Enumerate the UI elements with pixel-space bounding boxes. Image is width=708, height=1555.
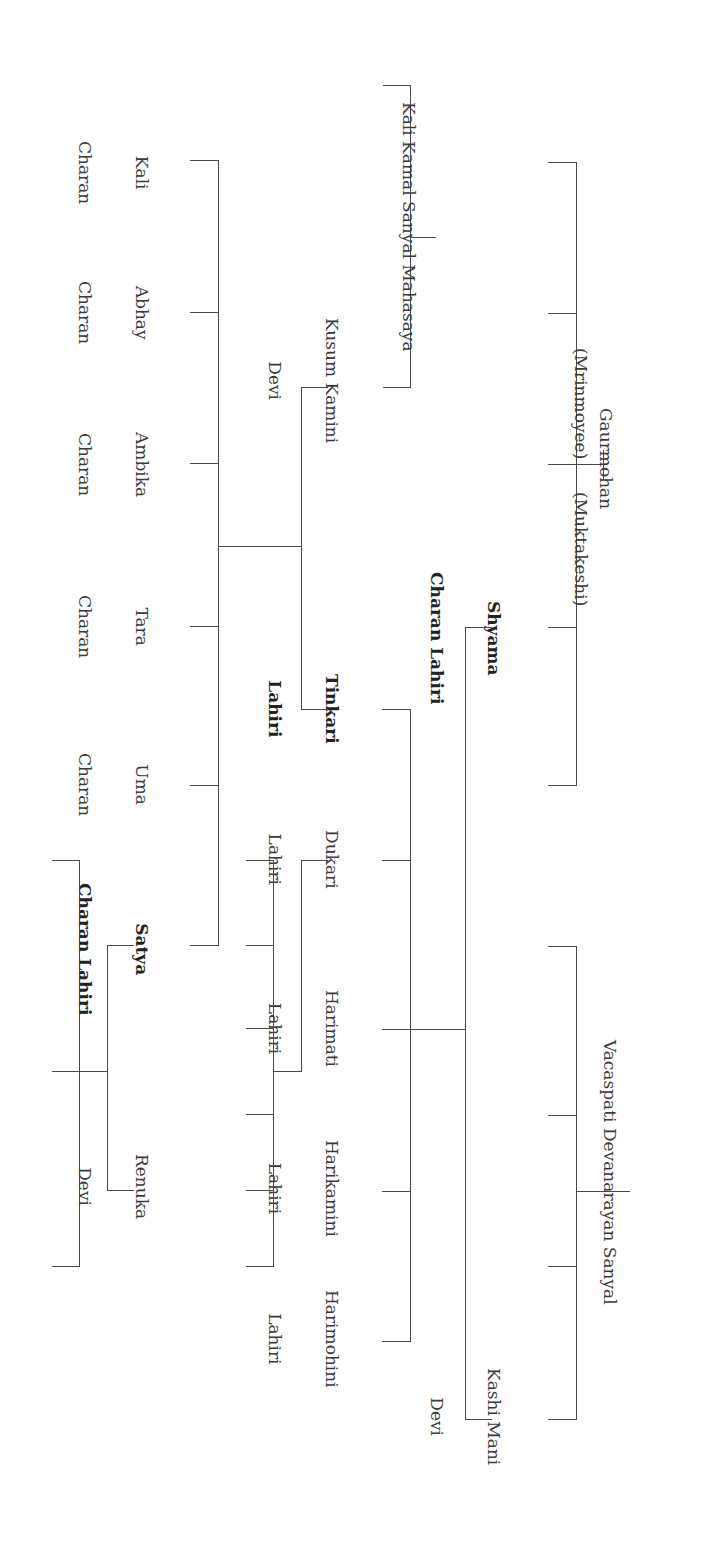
person-satya-charan-lahiri: Satya Charan Lahiri <box>37 883 189 1015</box>
renuka-name-line2: Devi <box>75 1154 94 1219</box>
shyama-name-line1: Shyama <box>484 572 503 704</box>
abhay-charan-tick <box>190 312 219 313</box>
dukari-child-tick-1 <box>246 860 274 861</box>
person-mrinmoyee: (Mrinmoyee) <box>533 348 628 459</box>
dukari-child-tick-3 <box>246 1028 274 1029</box>
vacaspati-name: Vacaspati Devanarayan Sanyal <box>600 1040 619 1305</box>
ambika-charan-name-line1: Ambika <box>132 432 151 497</box>
satya-children-bracket <box>79 860 80 1267</box>
harimohini-name-line2: Lahiri <box>265 1290 284 1388</box>
kusum-kamini-tick <box>383 387 411 388</box>
kali-kamal-name: Kali Kamal Sanyal Mahasaya <box>399 102 418 352</box>
dukari-descent-tick <box>301 860 328 861</box>
ambika-charan-tick <box>190 463 219 464</box>
harikamini-tick <box>382 1191 411 1192</box>
tara-charan-tick <box>190 626 219 627</box>
mrinmoyee-name: (Mrinmoyee) <box>571 348 590 459</box>
satya-name-line1: Satya <box>132 883 151 1015</box>
kusum-kamini-name-line2: Devi <box>265 318 284 443</box>
person-ambika-charan: Ambika Charan <box>37 432 189 497</box>
satya-name-line2: Charan Lahiri <box>75 883 94 1015</box>
satya-couple-tick <box>107 945 134 946</box>
tinkari-couple-tick <box>301 709 328 710</box>
tinkari-name-line2: Lahiri <box>265 674 284 744</box>
shyama-tick <box>465 627 492 628</box>
kashi-mani-name-line1: Kashi Mani <box>484 1368 503 1465</box>
dukari-children-connector <box>273 1071 302 1072</box>
satya-child-tick-3 <box>52 1266 80 1267</box>
kali-charan-tick <box>190 160 219 161</box>
family-tree-diagram: Gaurmohan (Mrinmoyee) (Muktakeshi) Vacas… <box>0 0 708 1555</box>
person-kusum-kamini-devi: Kusum Kamini Devi <box>227 318 379 443</box>
shyama-children-bracket <box>410 709 411 1341</box>
dukari-child-tick-6 <box>246 1266 274 1267</box>
shyama-name-line2: Charan Lahiri <box>427 572 446 704</box>
harikamini-name-line1: Harikamini <box>322 1140 341 1237</box>
person-uma-charan: Uma Charan <box>37 753 189 816</box>
gaurmohan-child-tick-1 <box>548 162 577 163</box>
kali-kamal-child-tick-1 <box>383 85 411 86</box>
uma-charan-tick <box>190 785 219 786</box>
harimohini-name-line1: Harimohini <box>322 1290 341 1388</box>
kali-charan-name-line1: Kali <box>132 141 151 204</box>
person-vacaspati: Vacaspati Devanarayan Sanyal <box>562 1040 657 1305</box>
satya-charan-tick <box>190 945 219 946</box>
dukari-tick <box>382 860 411 861</box>
dukari-descent-line <box>301 860 302 1072</box>
abhay-charan-name-line1: Abhay <box>132 281 151 344</box>
dukari-children-bracket <box>273 860 274 1267</box>
person-tara-charan: Tara Charan <box>37 595 189 658</box>
kusum-tinkari-couple-bracket <box>301 387 302 710</box>
satya-child-tick-1 <box>52 860 80 861</box>
abhay-charan-name-line2: Charan <box>75 281 94 344</box>
person-harikamini-lahiri: Harikamini Lahiri <box>227 1140 379 1237</box>
kusum-kamini-name-line1: Kusum Kamini <box>322 318 341 443</box>
kusum-couple-tick <box>301 387 328 388</box>
kashi-tick <box>465 1419 492 1420</box>
gaurmohan-child-tick-shyama <box>548 627 577 628</box>
muktakeshi-name: (Muktakeshi) <box>571 492 590 606</box>
person-kali-charan: Kali Charan <box>37 141 189 204</box>
tara-charan-name-line1: Tara <box>132 595 151 658</box>
uma-charan-name-line1: Uma <box>132 753 151 816</box>
satya-renuka-couple-bracket <box>107 945 108 1191</box>
person-muktakeshi: (Muktakeshi) <box>533 492 628 606</box>
dukari-child-tick-2 <box>246 945 274 946</box>
renuka-couple-tick <box>107 1190 134 1191</box>
vacaspati-child-tick-kashi <box>548 1419 577 1420</box>
kashi-mani-name-line2: Devi <box>427 1368 446 1465</box>
harimohini-tick <box>382 1341 411 1342</box>
gaurmohan-child-tick-5 <box>548 785 577 786</box>
vacaspati-child-tick-1 <box>548 946 577 947</box>
kali-charan-name-line2: Charan <box>75 141 94 204</box>
tinkari-tick <box>382 709 411 710</box>
tara-charan-name-line2: Charan <box>75 595 94 658</box>
kusum-tinkari-children-connector <box>218 546 302 547</box>
tinkari-children-bracket <box>218 160 219 946</box>
shyama-kashi-children-connector <box>382 1029 466 1030</box>
person-renuka-devi: Renuka Devi <box>37 1154 189 1219</box>
gaurmohan-child-tick-2 <box>548 313 577 314</box>
ambika-charan-name-line2: Charan <box>75 432 94 497</box>
renuka-name-line1: Renuka <box>132 1154 151 1219</box>
person-kali-kamal-sanyal-mahasaya: Kali Kamal Sanyal Mahasaya <box>361 102 456 352</box>
dukari-child-tick-4 <box>246 1114 274 1115</box>
shyama-kashi-couple-bracket <box>465 627 466 1420</box>
person-abhay-charan: Abhay Charan <box>37 281 189 344</box>
uma-charan-name-line2: Charan <box>75 753 94 816</box>
dukari-child-tick-5 <box>246 1190 274 1191</box>
harikamini-name-line2: Lahiri <box>265 1140 284 1237</box>
person-harimohini-lahiri: Harimohini Lahiri <box>227 1290 379 1388</box>
harimati-name-line1: Harimati <box>322 990 341 1067</box>
